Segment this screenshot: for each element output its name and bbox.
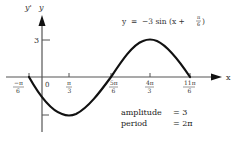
- amplitude-value: = 3: [173, 108, 187, 117]
- amplitude-label: amplitude: [121, 108, 162, 117]
- equation-lhs: y = −3 sin (x +: [121, 17, 187, 26]
- y-label: y: [38, 3, 44, 12]
- svg-text:6: 6: [188, 87, 192, 94]
- x-tick-label-neg-pi6: −π 6: [13, 79, 24, 94]
- x-axis-arrow-icon: [211, 74, 222, 81]
- y-prime-label: y': [24, 3, 32, 12]
- svg-text:3: 3: [68, 87, 72, 94]
- equation-frac-num: π: [197, 14, 201, 20]
- x-tick-label-5pi6: 5π 6: [109, 79, 118, 94]
- svg-text:−π: −π: [14, 79, 23, 86]
- svg-text:π: π: [67, 79, 71, 86]
- svg-text:5π: 5π: [110, 79, 118, 86]
- x-tick-label-0: 0: [45, 81, 49, 89]
- x-label: x: [226, 73, 231, 82]
- y-axis-arrow-icon: [39, 15, 46, 26]
- svg-text:6: 6: [16, 87, 20, 94]
- x-tick-label-11pi6: 11π 6: [183, 79, 196, 94]
- x-tick-label-pi3: π 3: [66, 79, 72, 94]
- equation-frac-den: 6: [197, 21, 200, 27]
- svg-text:3: 3: [148, 87, 152, 94]
- equation-rhs: ): [202, 17, 205, 26]
- x-tick-label-4pi3: 4π 3: [145, 79, 154, 94]
- period-label: period: [121, 119, 147, 128]
- svg-text:4π: 4π: [146, 79, 154, 86]
- svg-text:11π: 11π: [184, 79, 196, 86]
- sine-graph: y' y x y = −3 sin (x + π 6 ) 3 0 −π 6 π …: [0, 0, 234, 142]
- period-value: = 2π: [173, 119, 193, 128]
- y-tick-label-3: 3: [34, 36, 39, 45]
- svg-text:6: 6: [112, 87, 116, 94]
